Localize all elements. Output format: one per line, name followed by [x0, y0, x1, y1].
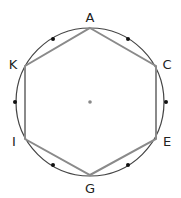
- vertex-label-i: I: [12, 134, 16, 149]
- hexagon-in-circle-figure: A C E G I K: [0, 0, 181, 198]
- diagram-canvas: A C E G I K: [0, 0, 181, 198]
- vertex-label-k: K: [9, 57, 18, 72]
- vertex-label-g: G: [85, 181, 95, 196]
- arc-midpoint-dot: [126, 163, 130, 167]
- arc-midpoint-dot: [126, 37, 130, 41]
- arc-midpoint-dot: [51, 163, 55, 167]
- arc-midpoint-dot: [51, 37, 55, 41]
- vertex-label-e: E: [163, 134, 171, 149]
- arc-midpoint-dot: [13, 100, 17, 104]
- vertex-label-a: A: [86, 10, 95, 25]
- vertex-label-c: C: [162, 57, 171, 72]
- arc-midpoint-dot: [164, 100, 168, 104]
- center-point: [88, 100, 92, 104]
